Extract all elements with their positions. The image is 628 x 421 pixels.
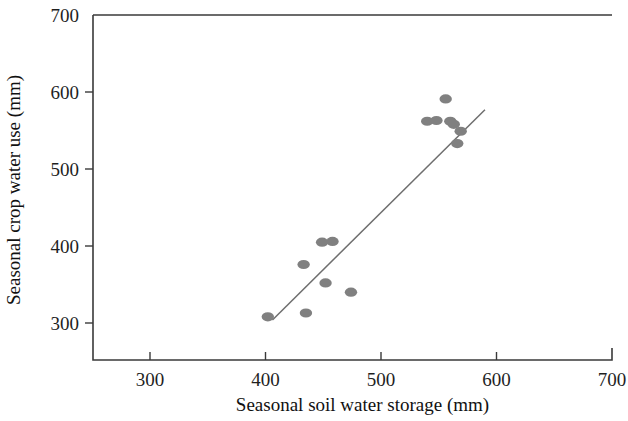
data-point xyxy=(300,308,312,317)
data-point xyxy=(454,127,466,136)
y-tick-label: 300 xyxy=(51,313,80,334)
data-point xyxy=(326,237,338,246)
axis-spine xyxy=(93,15,612,360)
x-tick-label: 300 xyxy=(136,369,165,390)
scatter-chart-figure: 300400500600700300400500600700Seasonal s… xyxy=(0,0,628,421)
y-axis-title: Seasonal crop water use (mm) xyxy=(3,75,25,305)
y-tick-label: 600 xyxy=(51,82,80,103)
data-point xyxy=(345,288,357,297)
data-point xyxy=(297,260,309,269)
x-tick-label: 500 xyxy=(367,369,396,390)
data-point xyxy=(262,312,274,321)
data-point xyxy=(451,139,463,148)
y-tick-label: 500 xyxy=(51,159,80,180)
x-axis-title: Seasonal soil water storage (mm) xyxy=(236,394,489,416)
y-tick-label: 700 xyxy=(51,5,80,26)
data-point xyxy=(430,116,442,125)
data-point xyxy=(439,94,451,103)
y-tick-label: 400 xyxy=(51,236,80,257)
x-tick-label: 600 xyxy=(482,369,511,390)
chart-canvas: 300400500600700300400500600700Seasonal s… xyxy=(0,0,628,421)
x-tick-label: 700 xyxy=(598,369,627,390)
data-point xyxy=(319,278,331,287)
x-tick-label: 400 xyxy=(251,369,280,390)
